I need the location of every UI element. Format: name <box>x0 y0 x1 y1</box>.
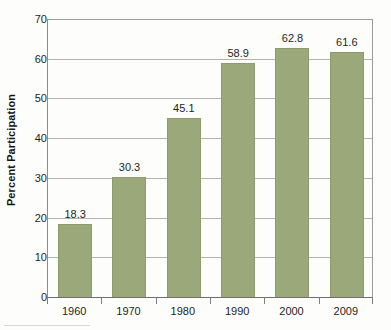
bar[interactable] <box>58 224 92 297</box>
bar[interactable] <box>167 118 201 297</box>
x-axis-label-group: 196019701980199020002009 <box>47 305 373 321</box>
y-axis-tick-group: 010203040506070 <box>14 19 47 297</box>
x-tick-mark <box>156 297 157 304</box>
x-tick-mark <box>319 297 320 304</box>
y-tick-label: 60 <box>21 53 47 64</box>
bar[interactable] <box>221 63 255 297</box>
bar[interactable] <box>112 177 146 297</box>
x-tick-mark <box>101 297 102 304</box>
bar-slot: 58.9 <box>211 19 265 297</box>
y-tick-label: 0 <box>21 292 47 303</box>
x-tick-label: 2000 <box>279 305 303 318</box>
bar-slot: 18.3 <box>48 19 102 297</box>
bar-value-label: 30.3 <box>119 162 140 173</box>
y-tick-label: 10 <box>21 252 47 263</box>
bar-value-label: 61.6 <box>336 37 357 48</box>
x-tick-label: 1960 <box>62 305 86 318</box>
x-tick-label: 2009 <box>334 305 358 318</box>
bar-slot: 62.8 <box>265 19 319 297</box>
bar[interactable] <box>275 48 309 297</box>
scan-artifact-line <box>4 325 90 326</box>
bar-slot: 61.6 <box>320 19 374 297</box>
y-tick-label: 50 <box>21 93 47 104</box>
bar-value-label: 62.8 <box>282 33 303 44</box>
x-tick-mark <box>372 297 373 304</box>
x-tick-label: 1990 <box>225 305 249 318</box>
x-tick-mark <box>210 297 211 304</box>
bar-value-label: 58.9 <box>227 48 248 59</box>
x-tick-mark <box>264 297 265 304</box>
y-tick-label: 40 <box>21 133 47 144</box>
bar-slot: 30.3 <box>102 19 156 297</box>
x-tick-label: 1980 <box>171 305 195 318</box>
bar-value-label: 18.3 <box>64 209 85 220</box>
y-tick-label: 70 <box>21 14 47 25</box>
x-tick-label: 1970 <box>116 305 140 318</box>
bar-slot: 45.1 <box>157 19 211 297</box>
x-tick-mark <box>47 297 48 304</box>
y-tick-label: 20 <box>21 212 47 223</box>
bar[interactable] <box>330 52 364 297</box>
x-axis-tick-group <box>47 297 373 304</box>
bars-layer: 18.330.345.158.962.861.6 <box>48 19 372 297</box>
bar-value-label: 45.1 <box>173 103 194 114</box>
plot-area: 18.330.345.158.962.861.6 <box>47 19 373 297</box>
bar-chart: Percent Participation 010203040506070 18… <box>0 0 391 330</box>
y-tick-label: 30 <box>21 172 47 183</box>
